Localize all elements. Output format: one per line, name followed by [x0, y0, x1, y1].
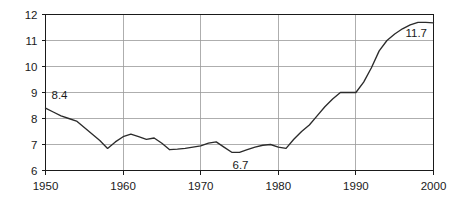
data-point-label: 11.7 — [405, 27, 427, 39]
data-series-group — [46, 22, 434, 152]
data-point-annotations: 8.46.711.7 — [52, 27, 427, 171]
x-axis-tick-label: 1950 — [33, 180, 59, 192]
horizontal-gridlines — [46, 41, 434, 145]
y-axis-tick-label: 11 — [26, 35, 38, 47]
chart-canvas: 6789101112 195019601970198019902000 8.46… — [0, 0, 464, 207]
x-axis-tick-label: 1970 — [188, 180, 214, 192]
data-point-label: 8.4 — [52, 89, 69, 101]
y-axis-tick-labels: 6789101112 — [25, 9, 38, 177]
x-axis-tick-label: 1960 — [110, 180, 136, 192]
line-chart-figure: 6789101112 195019601970198019902000 8.46… — [0, 0, 464, 207]
y-axis-tick-label: 10 — [25, 61, 38, 73]
y-axis-tick-label: 12 — [25, 9, 38, 21]
axis-tick-marks — [42, 15, 434, 175]
y-axis-tick-label: 8 — [31, 113, 37, 125]
y-axis-tick-label: 7 — [31, 139, 37, 151]
y-axis-tick-label: 9 — [31, 87, 37, 99]
x-axis-tick-label: 2000 — [421, 180, 447, 192]
x-axis-tick-label: 1990 — [343, 180, 369, 192]
x-axis-tick-labels: 195019601970198019902000 — [33, 180, 447, 192]
data-line-series-1 — [46, 22, 434, 152]
y-axis-tick-label: 6 — [31, 165, 37, 177]
x-axis-tick-label: 1980 — [266, 180, 292, 192]
data-point-label: 6.7 — [233, 159, 249, 171]
